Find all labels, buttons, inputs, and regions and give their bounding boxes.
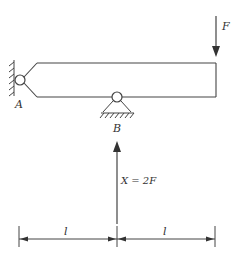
label-a: A bbox=[14, 98, 23, 111]
label-span-left: l bbox=[64, 225, 68, 238]
force-f-arrow bbox=[212, 16, 220, 57]
pin-a bbox=[15, 75, 25, 85]
label-b: B bbox=[112, 122, 121, 135]
beam-diagram: A B F X = 2F l l bbox=[0, 0, 236, 259]
pin-b bbox=[112, 92, 122, 102]
label-span-right: l bbox=[163, 225, 167, 238]
label-f: F bbox=[221, 20, 230, 33]
pin-support-b bbox=[100, 101, 134, 118]
dimension-lines bbox=[19, 226, 215, 247]
label-reaction: X = 2F bbox=[120, 175, 157, 186]
beam bbox=[24, 63, 216, 97]
wall-support-a bbox=[9, 60, 14, 96]
reaction-x-arrow bbox=[113, 141, 121, 224]
